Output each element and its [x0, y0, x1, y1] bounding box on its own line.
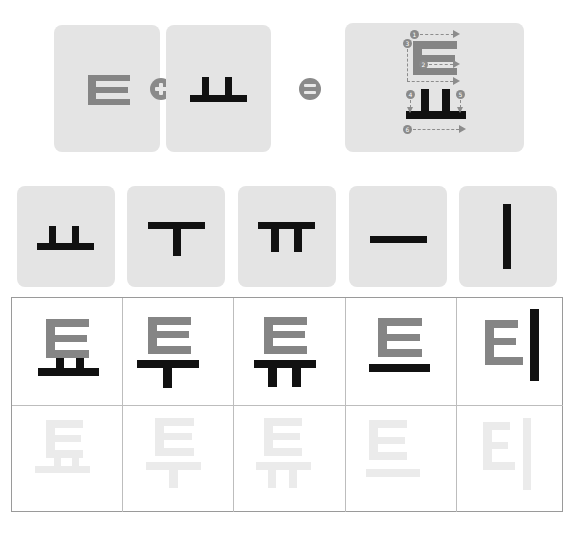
vowel-label: ㅛ — [166, 25, 167, 26]
consonant-card: ㅌ — [54, 25, 160, 152]
vowel-card-yu[interactable]: ㅠ — [238, 186, 336, 287]
trace-cell-ti[interactable]: 티 — [457, 406, 563, 512]
trace-cell-tyo[interactable]: 툐 — [12, 406, 123, 512]
stroke-number-4: 4 — [406, 90, 415, 99]
result-label: 툐 — [345, 23, 346, 24]
stroke-number-3: 3 — [403, 39, 412, 48]
grid-cell-ti: 티 — [457, 298, 563, 406]
stroke-number-5: 5 — [456, 90, 465, 99]
consonant-label: ㅌ — [54, 25, 55, 26]
grid-cell-tyo: 툐 — [12, 298, 123, 406]
trace-cell-teu[interactable]: 트 — [346, 406, 457, 512]
grid-cell-tyu: 튜 — [234, 298, 346, 406]
vowel-card: ㅛ — [166, 25, 271, 152]
stroke-number-6: 6 — [403, 125, 412, 134]
grid-cell-teu: 트 — [346, 298, 457, 406]
vowel-card-eu[interactable]: ㅡ — [349, 186, 447, 287]
vowel-card-yo[interactable]: ㅛ — [17, 186, 115, 287]
trace-cell-tu[interactable]: 투 — [123, 406, 234, 512]
practice-grid: 툐 투 튜 트 티 — [11, 297, 563, 512]
trace-cell-tyu[interactable]: 튜 — [234, 406, 346, 512]
vowel-card-i[interactable]: ㅣ — [459, 186, 557, 287]
result-card: 툐 1 3 2 4 5 6 — [345, 23, 524, 152]
stroke-number-1: 1 — [410, 30, 419, 39]
vowel-card-u[interactable]: ㅜ — [127, 186, 225, 287]
stroke-number-2: 2 — [419, 60, 428, 69]
equals-icon: = — [299, 78, 321, 100]
grid-cell-tu: 투 — [123, 298, 234, 406]
